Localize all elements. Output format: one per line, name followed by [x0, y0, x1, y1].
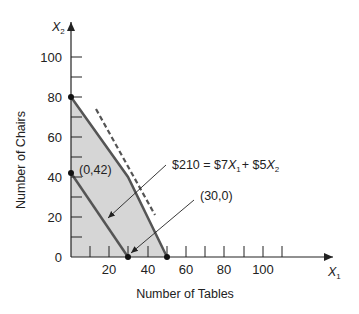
point-30-0 [125, 254, 131, 260]
x-axis-symbol: X1 [327, 265, 341, 281]
y-tick-label: 0 [55, 250, 62, 265]
y-axis-title: Number of Chairs [14, 111, 28, 209]
y-tick-labels: 0 20 40 60 80 100 [40, 50, 62, 265]
x-tick-label: 100 [252, 262, 274, 277]
y-tick-label: 80 [48, 90, 62, 105]
y-tick-label: 40 [48, 170, 62, 185]
x-tick-label: 80 [217, 262, 231, 277]
y-tick-label: 20 [48, 210, 62, 225]
annotation-30-0: (30,0) [200, 189, 233, 203]
annotation-equation: $210 = $7X1+ $5X2 [172, 158, 280, 174]
point-0-80 [68, 94, 74, 100]
y-tick-label: 60 [48, 130, 62, 145]
x-tick-label: 40 [141, 262, 155, 277]
point-label-0-42: (0,42) [79, 163, 112, 177]
x-axis-title: Number of Tables [136, 287, 234, 301]
linear-programming-chart: 0 20 40 60 80 100 20 40 60 80 100 X2 X1 … [0, 0, 359, 314]
x-tick-labels: 20 40 60 80 100 [102, 262, 274, 277]
y-tick-label: 100 [40, 50, 62, 65]
x-tick-label: 20 [102, 262, 116, 277]
x-tick-label: 60 [179, 262, 193, 277]
point-0-42 [68, 170, 74, 176]
y-axis-symbol: X2 [51, 20, 65, 36]
point-50-0 [164, 254, 170, 260]
